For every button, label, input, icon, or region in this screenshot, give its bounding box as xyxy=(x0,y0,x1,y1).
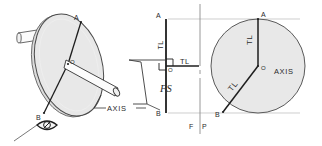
edge-label-a: A xyxy=(156,12,161,19)
drawing-canvas: A O B AXIS xyxy=(0,0,322,146)
edge-tl-horizontal-label: TL xyxy=(180,57,190,66)
ts-label-a: A xyxy=(261,11,266,18)
ts-axis-label: AXIS xyxy=(274,67,294,76)
pictorial-label-b: B xyxy=(36,114,41,121)
fold-line-front-label: F xyxy=(189,123,193,130)
edge-tl-vertical-label: TL xyxy=(157,41,164,50)
pictorial-axis-label: AXIS xyxy=(107,104,127,113)
ts-label-o: O xyxy=(261,65,266,71)
ts-point-b-marker xyxy=(222,111,224,113)
ts-label-b: B xyxy=(215,111,220,118)
edge-label-b: B xyxy=(156,110,161,117)
edge-label-o: O xyxy=(168,67,173,73)
ts-point-o-marker xyxy=(257,65,259,67)
point-b-marker xyxy=(43,112,45,114)
ts-point-a-marker xyxy=(257,18,259,20)
pictorial-label-o: O xyxy=(70,59,75,65)
fold-line-profile-label: P xyxy=(202,123,207,130)
ts-tl-upper-label: TL xyxy=(245,35,254,45)
pictorial-label-a: A xyxy=(74,14,79,21)
point-a-marker xyxy=(80,21,82,23)
edge-fs-label: FS xyxy=(159,83,172,94)
point-o-marker xyxy=(67,63,69,65)
